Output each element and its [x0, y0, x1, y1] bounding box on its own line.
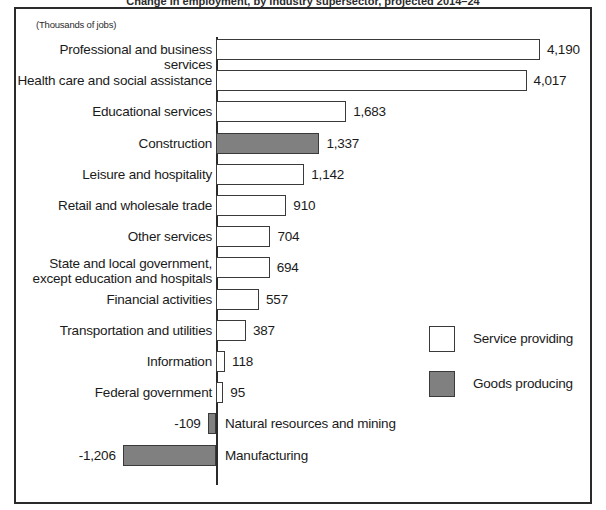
bar-goods-producing[interactable]: [123, 445, 216, 466]
bar-row: State and local government, except educa…: [0, 256, 606, 287]
bar-value-label: -109: [174, 416, 200, 431]
bar-category-label: Leisure and hospitality: [12, 167, 212, 182]
bar-row: Professional and business services4,190: [0, 38, 606, 69]
bar-row: Health care and social assistance4,017: [0, 69, 606, 100]
bar-value-label: 118: [232, 354, 253, 369]
bar-category-label: Retail and wholesale trade: [12, 198, 212, 213]
bar-category-label: Information: [12, 354, 212, 369]
bar-service-providing[interactable]: [216, 382, 223, 403]
bar-category-label: State and local government, except educa…: [12, 256, 212, 286]
bar-goods-producing[interactable]: [208, 413, 216, 434]
bar-value-label: 1,142: [311, 167, 344, 182]
bar-category-label: Natural resources and mining: [225, 416, 396, 431]
bar-value-label: 4,190: [547, 42, 580, 57]
bar-category-label: Transportation and utilities: [12, 323, 212, 338]
bar-service-providing[interactable]: [216, 195, 286, 216]
legend-swatch-service: [429, 326, 455, 352]
bar-category-label: Other services: [12, 229, 212, 244]
bar-value-label: 910: [293, 198, 315, 213]
bar-goods-producing[interactable]: [216, 133, 319, 154]
bar-service-providing[interactable]: [216, 257, 270, 278]
bar-service-providing[interactable]: [216, 351, 225, 372]
bar-category-label: Financial activities: [12, 292, 212, 307]
bar-service-providing[interactable]: [216, 101, 346, 122]
bar-row: Other services704: [0, 225, 606, 256]
bar-value-label: 4,017: [534, 73, 567, 88]
bar-value-label: 1,683: [353, 104, 386, 119]
bar-value-label: 557: [266, 292, 288, 307]
bar-value-label: -1,206: [79, 448, 116, 463]
bar-value-label: 694: [277, 260, 299, 275]
bar-row: Educational services1,683: [0, 100, 606, 131]
bar-value-label: 95: [230, 385, 245, 400]
bar-row: Leisure and hospitality1,142: [0, 163, 606, 194]
bar-service-providing[interactable]: [216, 39, 540, 60]
legend-item[interactable]: Goods producing: [429, 371, 599, 398]
bar-row: Construction1,337: [0, 132, 606, 163]
bar-service-providing[interactable]: [216, 289, 259, 310]
bar-category-label: Manufacturing: [225, 448, 308, 463]
bar-category-label: Health care and social assistance: [12, 73, 212, 88]
bar-row: Financial activities557: [0, 288, 606, 319]
bar-service-providing[interactable]: [216, 70, 527, 91]
bar-service-providing[interactable]: [216, 164, 304, 185]
bar-row: Manufacturing-1,206: [0, 444, 606, 475]
bar-service-providing[interactable]: [216, 226, 270, 247]
bar-category-label: Federal government: [12, 385, 212, 400]
bar-category-label: Construction: [12, 136, 212, 151]
bar-value-label: 387: [253, 323, 275, 338]
plot-area: Professional and business services4,190H…: [0, 0, 606, 510]
bar-row: Retail and wholesale trade910: [0, 194, 606, 225]
bar-row: Natural resources and mining-109: [0, 412, 606, 443]
legend-swatch-goods: [429, 371, 455, 397]
bar-category-label: Professional and business services: [12, 42, 212, 72]
chart-figure: Change in employment, by industry supers…: [0, 0, 606, 510]
legend-label: Goods producing: [473, 376, 573, 391]
legend-label: Service providing: [473, 331, 573, 346]
bar-value-label: 1,337: [326, 136, 359, 151]
legend-item[interactable]: Service providing: [429, 326, 599, 353]
bar-service-providing[interactable]: [216, 320, 246, 341]
bar-category-label: Educational services: [12, 104, 212, 119]
bar-value-label: 704: [277, 229, 299, 244]
